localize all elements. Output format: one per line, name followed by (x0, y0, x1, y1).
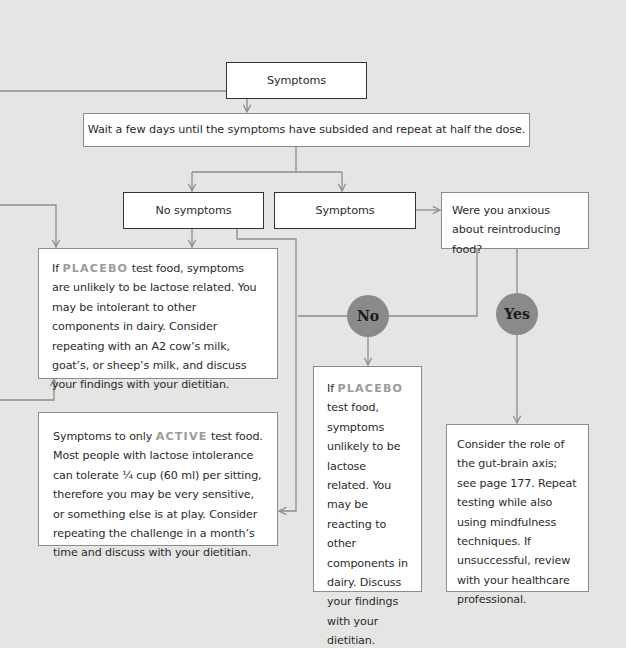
placebo-left-prefix: If (52, 262, 62, 275)
active-node: Symptoms to only ACTIVE test food. Most … (38, 412, 278, 546)
anxious-question-label: Were you anxious about reintroducing foo… (452, 204, 561, 256)
placebo-left-text: test food, symptoms are unlikely to be l… (52, 262, 257, 391)
active-highlight: ACTIVE (156, 430, 208, 443)
no-symptoms-label: No symptoms (155, 201, 231, 220)
active-text: test food. Most people with lactose into… (53, 430, 263, 559)
placebo-left-node: If PLACEBO test food, symptoms are unlik… (38, 248, 278, 379)
symptoms-node: Symptoms (274, 192, 416, 229)
symptoms-label: Symptoms (316, 201, 375, 220)
active-prefix: Symptoms to only (53, 430, 156, 443)
decision-no-label: No (357, 308, 379, 324)
wait-label: Wait a few days until the symptoms have … (88, 120, 525, 139)
decision-yes-label: Yes (504, 306, 530, 322)
yes-outcome-node: Consider the role of the gut-brain axis;… (446, 424, 589, 592)
placebo-no-highlight: PLACEBO (337, 382, 403, 395)
top-symptoms-label: Symptoms (267, 71, 326, 90)
decision-no: No (347, 295, 389, 337)
anxious-question-node: Were you anxious about reintroducing foo… (441, 192, 589, 249)
placebo-no-text: test food, symptoms unlikely to be lacto… (327, 401, 408, 647)
no-symptoms-node: No symptoms (123, 192, 264, 229)
placebo-highlight: PLACEBO (62, 262, 128, 275)
top-symptoms-node: Symptoms (226, 62, 367, 99)
placebo-no-node: If PLACEBO test food, symptoms unlikely … (313, 366, 422, 592)
yes-outcome-text: Consider the role of the gut-brain axis;… (457, 438, 576, 606)
placebo-no-prefix: If (327, 382, 337, 395)
decision-yes: Yes (496, 293, 538, 335)
wait-node: Wait a few days until the symptoms have … (83, 113, 530, 147)
